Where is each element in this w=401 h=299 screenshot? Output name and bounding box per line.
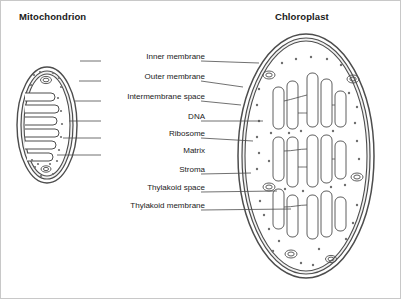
label-stroma: Stroma	[179, 165, 205, 174]
label-dna: DNA	[188, 112, 205, 121]
chloroplast-figure	[238, 34, 374, 278]
label-list: Inner membrane Outer membrane Intermembr…	[93, 1, 205, 299]
label-intermembrane-space: Intermembrane space	[127, 92, 205, 101]
leader-intermembrane-space-right	[201, 101, 241, 105]
diagram-canvas: Mitochondrion Chloroplast	[0, 0, 401, 299]
leader-inner-membrane-right	[201, 61, 259, 63]
label-thylakoid-membrane: Thylakoid membrane	[130, 201, 205, 210]
label-ribosome: Ribosome	[169, 129, 205, 138]
leader-outer-membrane-right	[201, 81, 243, 87]
label-thylakoid-space: Thylakoid space	[147, 183, 205, 192]
label-matrix: Matrix	[183, 146, 205, 155]
label-outer-membrane: Outer membrane	[145, 72, 205, 81]
label-inner-membrane: Inner membrane	[146, 52, 205, 61]
chloroplast-grana-right	[307, 73, 346, 239]
mitochondrion-figure	[17, 67, 77, 183]
